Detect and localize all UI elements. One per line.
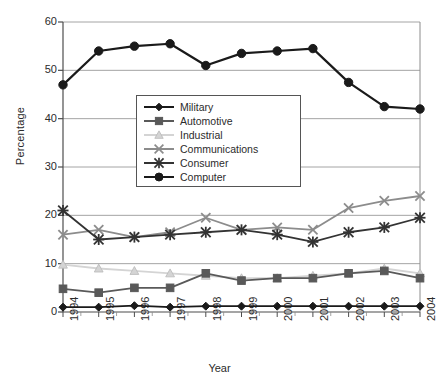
legend-key-x-icon bbox=[142, 142, 176, 156]
data-point-square bbox=[345, 270, 353, 278]
data-point-circle bbox=[344, 78, 352, 86]
data-point-diamond bbox=[345, 302, 353, 310]
data-point-star bbox=[57, 205, 68, 216]
data-point-star bbox=[200, 227, 211, 238]
data-point-circle bbox=[202, 61, 210, 69]
data-point-diamond bbox=[155, 103, 163, 111]
data-point-diamond bbox=[380, 302, 388, 310]
legend-key-square-icon bbox=[142, 114, 176, 128]
data-point-circle bbox=[59, 81, 67, 89]
legend-item-automotive[interactable]: Automotive bbox=[142, 114, 295, 128]
data-point-diamond bbox=[416, 302, 424, 310]
series-military bbox=[59, 302, 424, 311]
legend-item-consumer[interactable]: Consumer bbox=[142, 156, 295, 170]
data-point-circle bbox=[166, 40, 174, 48]
data-point-square bbox=[166, 284, 174, 292]
legend-key-circle-icon bbox=[142, 170, 176, 184]
data-point-star bbox=[93, 234, 104, 245]
data-point-diamond bbox=[273, 302, 281, 310]
legend-item-computer[interactable]: Computer bbox=[142, 170, 295, 184]
legend-label: Consumer bbox=[176, 156, 228, 170]
data-point-star bbox=[165, 229, 176, 240]
legend-key-diamond-icon bbox=[142, 100, 176, 114]
data-point-square bbox=[155, 117, 162, 124]
data-point-circle bbox=[273, 47, 281, 55]
legend-label: Automotive bbox=[176, 114, 233, 128]
data-point-square bbox=[95, 289, 103, 297]
data-point-circle bbox=[237, 49, 245, 57]
data-point-star bbox=[129, 232, 140, 243]
data-point-diamond bbox=[202, 302, 210, 310]
data-point-circle bbox=[130, 42, 138, 50]
data-point-star bbox=[343, 227, 354, 238]
legend-item-industrial[interactable]: Industrial bbox=[142, 128, 295, 142]
legend-key-triangle-icon bbox=[142, 128, 176, 142]
legend-label: Industrial bbox=[176, 128, 223, 142]
plot-area bbox=[0, 0, 439, 385]
data-point-square bbox=[273, 274, 281, 282]
legend-label: Computer bbox=[176, 170, 226, 184]
data-point-diamond bbox=[166, 303, 174, 311]
data-point-circle bbox=[155, 173, 163, 181]
legend-label: Communications bbox=[176, 142, 258, 156]
data-point-square bbox=[131, 284, 139, 292]
data-point-star bbox=[307, 236, 318, 247]
data-point-circle bbox=[95, 47, 103, 55]
legend-item-communications[interactable]: Communications bbox=[142, 142, 295, 156]
data-point-square bbox=[202, 270, 210, 278]
data-point-diamond bbox=[130, 302, 138, 310]
data-point-circle bbox=[416, 105, 424, 113]
line-chart: Percentage Year 0102030405060 1994199519… bbox=[0, 0, 439, 385]
data-point-circle bbox=[380, 102, 388, 110]
data-point-star bbox=[379, 222, 390, 233]
data-point-square bbox=[309, 274, 317, 282]
data-point-square bbox=[381, 267, 389, 275]
data-point-square bbox=[59, 285, 67, 293]
chart-legend: MilitaryAutomotiveIndustrialCommunicatio… bbox=[136, 95, 301, 187]
series-consumer bbox=[57, 205, 425, 247]
data-point-diamond bbox=[59, 303, 67, 311]
data-point-diamond bbox=[95, 303, 103, 311]
data-point-star bbox=[272, 229, 283, 240]
data-point-circle bbox=[309, 44, 317, 52]
data-point-diamond bbox=[238, 302, 246, 310]
legend-item-military[interactable]: Military bbox=[142, 100, 295, 114]
data-point-square bbox=[416, 274, 424, 282]
data-point-x bbox=[201, 213, 210, 222]
data-point-square bbox=[238, 277, 246, 285]
data-point-star bbox=[236, 224, 247, 235]
data-point-star bbox=[414, 212, 425, 223]
data-point-diamond bbox=[309, 302, 317, 310]
legend-label: Military bbox=[176, 100, 213, 114]
data-point-star bbox=[154, 158, 164, 168]
series-automotive bbox=[59, 267, 424, 296]
legend-key-star-icon bbox=[142, 156, 176, 170]
